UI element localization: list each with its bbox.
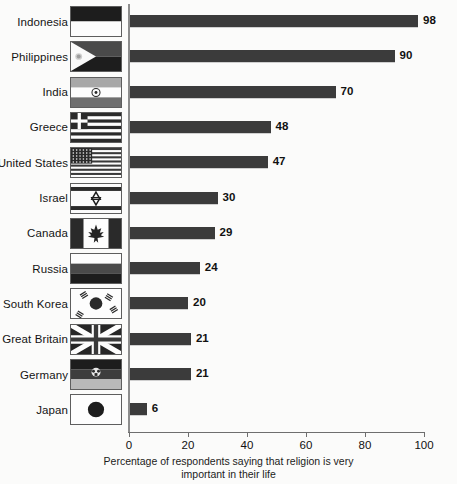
country-label: South Korea — [3, 287, 68, 320]
flag-greece-icon — [70, 112, 122, 143]
bar — [129, 368, 191, 381]
bar-container: 70 — [129, 86, 336, 100]
bar-container: 6 — [129, 403, 147, 417]
bar-value-label: 70 — [341, 85, 354, 97]
country-label: India — [43, 76, 68, 109]
bar — [129, 262, 200, 275]
chart-row: Germany 21 — [0, 358, 457, 391]
bar-container: 24 — [129, 262, 200, 276]
bar-value-label: 24 — [205, 261, 218, 273]
x-axis-caption-line-2: important in their life — [0, 468, 457, 481]
flag-philippines-icon — [70, 41, 122, 72]
flag-india-icon — [70, 77, 122, 108]
bar-container: 21 — [129, 368, 191, 382]
bar-container: 98 — [129, 15, 418, 29]
x-axis-tick-label: 60 — [300, 439, 313, 451]
x-axis-tick-label: 40 — [241, 439, 254, 451]
flag-israel-icon — [70, 183, 122, 214]
flag-japan-icon — [70, 394, 122, 425]
bar — [129, 86, 336, 99]
bar-container: 90 — [129, 50, 395, 64]
bar-chart: Indonesia98Philippines 90India 70Greece — [0, 0, 457, 484]
x-axis-tick — [306, 432, 307, 437]
bar — [129, 333, 191, 346]
bar-container: 29 — [129, 227, 215, 241]
bar-value-label: 30 — [223, 191, 236, 203]
flag-russia-icon — [70, 253, 122, 284]
chart-row: Canada 29 — [0, 217, 457, 250]
bar-container: 47 — [129, 156, 268, 170]
bar-value-label: 29 — [220, 226, 233, 238]
chart-row: South Korea 20 — [0, 287, 457, 320]
bar-value-label: 6 — [152, 402, 158, 414]
country-label: Israel — [39, 182, 68, 215]
x-axis-tick-label: 0 — [126, 439, 132, 451]
country-label: Philippines — [11, 40, 68, 73]
chart-row: Philippines 90 — [0, 40, 457, 73]
x-axis-line — [128, 432, 425, 433]
chart-row: Greece 48 — [0, 111, 457, 144]
country-label: Russia — [32, 252, 68, 285]
bar — [129, 227, 215, 240]
country-label: Indonesia — [17, 5, 68, 38]
country-label: Canada — [27, 217, 68, 250]
x-axis-tick-label: 20 — [182, 439, 195, 451]
flag-germany-icon — [70, 359, 122, 390]
flag-indonesia-icon — [70, 6, 122, 37]
bar-value-label: 20 — [193, 296, 206, 308]
x-axis-tick — [365, 432, 366, 437]
y-axis-line — [128, 4, 130, 432]
x-axis-tick — [129, 432, 130, 437]
country-label: Japan — [36, 393, 68, 426]
chart-row: Japan6 — [0, 393, 457, 426]
bar — [129, 403, 147, 416]
flag-south-korea-icon — [70, 288, 122, 319]
chart-row: Indonesia98 — [0, 5, 457, 38]
x-axis-tick — [424, 432, 425, 437]
flag-canada-icon — [70, 218, 122, 249]
bar-container: 30 — [129, 192, 218, 206]
x-axis-tick-label: 80 — [359, 439, 372, 451]
chart-row: Great Britain 21 — [0, 323, 457, 356]
chart-row: Russia 24 — [0, 252, 457, 285]
chart-row: India 70 — [0, 76, 457, 109]
chart-row: United States 47 — [0, 146, 457, 179]
bar-container: 48 — [129, 121, 271, 135]
x-axis-tick — [247, 432, 248, 437]
bar-value-label: 98 — [423, 14, 436, 26]
bar — [129, 297, 188, 310]
country-label: United States — [0, 146, 68, 179]
bar-value-label: 21 — [196, 367, 209, 379]
bar-container: 21 — [129, 333, 191, 347]
bar-value-label: 90 — [400, 49, 413, 61]
x-axis-tick-label: 100 — [414, 439, 433, 451]
bar-container: 20 — [129, 297, 188, 311]
country-label: Greece — [30, 111, 68, 144]
country-label: Germany — [20, 358, 68, 391]
country-label: Great Britain — [2, 323, 68, 356]
bar — [129, 156, 268, 169]
bar — [129, 121, 271, 134]
bar-value-label: 47 — [273, 155, 286, 167]
chart-row: Israel 30 — [0, 182, 457, 215]
bar-value-label: 21 — [196, 332, 209, 344]
bar-value-label: 48 — [276, 120, 289, 132]
x-axis-tick — [188, 432, 189, 437]
bar — [129, 15, 418, 28]
x-axis-caption-line-1: Percentage of respondents saying that re… — [0, 455, 457, 468]
bar — [129, 192, 218, 205]
flag-great-britain-icon — [70, 324, 122, 355]
x-axis-caption: Percentage of respondents saying that re… — [0, 455, 457, 481]
flag-united-states-icon — [70, 147, 122, 178]
bar — [129, 50, 395, 63]
